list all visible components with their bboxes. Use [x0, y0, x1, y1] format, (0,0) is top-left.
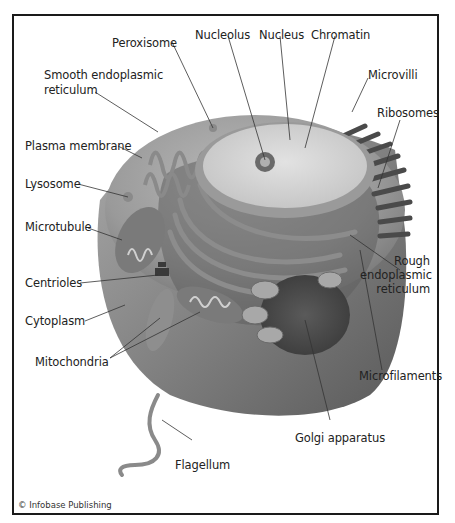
- lysosome: [123, 192, 133, 202]
- label-microtubule: Microtubule: [25, 221, 92, 234]
- label-nucleus: Nucleus: [259, 29, 304, 42]
- label-golgi-apparatus: Golgi apparatus: [295, 432, 385, 445]
- label-centrioles: Centrioles: [25, 277, 82, 290]
- nucleus: [195, 122, 375, 218]
- copyright: © Infobase Publishing: [18, 500, 112, 510]
- label-peroxisome: Peroxisome: [112, 37, 177, 50]
- label-lysosome: Lysosome: [25, 178, 81, 191]
- label-plasma-membrane: Plasma membrane: [25, 140, 132, 153]
- label-microvilli: Microvilli: [368, 69, 418, 82]
- label-chromatin: Chromatin: [311, 29, 370, 42]
- label-nucleolus: Nucleolus: [195, 29, 250, 42]
- label-ribosomes: Ribosomes: [377, 107, 439, 120]
- label-smooth-er-1: Smooth endoplasmic: [44, 69, 163, 82]
- label-rough-er-3: reticulum: [360, 283, 430, 296]
- flagellum: [120, 395, 159, 475]
- label-rough-er-2: endoplasmic: [360, 269, 430, 282]
- label-rough-er-1: Rough: [360, 255, 430, 268]
- label-smooth-er-2: reticulum: [44, 84, 98, 97]
- label-cytoplasm: Cytoplasm: [25, 315, 85, 328]
- label-microfilaments: Microfilaments: [359, 370, 442, 383]
- label-mitochondria: Mitochondria: [35, 356, 109, 369]
- label-flagellum: Flagellum: [175, 459, 230, 472]
